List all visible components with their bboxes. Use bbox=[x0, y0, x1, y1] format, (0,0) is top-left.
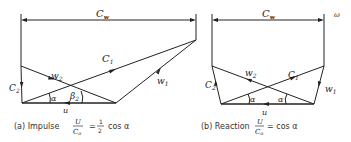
b-w2-label: w2 bbox=[245, 68, 257, 79]
diagram-b-labels: Cw C1 C2 w2 w1 u α α (b) Reaction U Co =… bbox=[201, 8, 337, 136]
b-caption-den: Co bbox=[255, 128, 263, 136]
a-caption-rest: cos α bbox=[108, 122, 129, 131]
a-w2-vector bbox=[21, 66, 116, 103]
a-caption-num: U bbox=[75, 118, 82, 126]
diagram-b-reaction bbox=[212, 14, 324, 106]
b-alpha-left-label: α bbox=[250, 95, 256, 104]
velocity-triangles-figure: Cw C1 C2 w2 w1 u α β2 (a) Impulse U Co =… bbox=[0, 0, 351, 142]
a-u-label: u bbox=[63, 106, 68, 115]
a-beta-label: β2 bbox=[69, 91, 79, 102]
a-beta-arc bbox=[81, 91, 83, 103]
a-cw-label: Cw bbox=[96, 8, 110, 20]
b-alpha-right-label: α bbox=[278, 95, 284, 104]
a-caption-frac-den: 2 bbox=[98, 127, 102, 134]
b-alpha-right-arc bbox=[285, 94, 287, 104]
a-caption-frac-num: 1 bbox=[99, 118, 103, 125]
b-w1-label: w1 bbox=[325, 84, 337, 95]
b-c2-label: C2 bbox=[205, 80, 216, 91]
diagram-a-labels: Cw C1 C2 w2 w1 u α β2 (a) Impulse U Co =… bbox=[9, 8, 169, 136]
b-caption-rest: = cos α bbox=[267, 122, 298, 131]
b-cw-label: Cw bbox=[262, 8, 276, 20]
a-caption-den: Co bbox=[73, 128, 81, 136]
a-alpha-label: α bbox=[51, 94, 57, 103]
b-w2-vector bbox=[212, 66, 314, 104]
a-caption-eq: = bbox=[89, 122, 96, 131]
a-w2-label: w2 bbox=[51, 71, 63, 82]
a-caption-prefix: (a) Impulse bbox=[14, 122, 59, 131]
b-c1-label: C1 bbox=[288, 70, 299, 81]
a-c1-vector bbox=[22, 40, 196, 103]
b-caption-num: U bbox=[257, 118, 264, 126]
a-c2-label: C2 bbox=[9, 83, 20, 94]
b-caption-prefix: (b) Reaction bbox=[201, 122, 250, 131]
corner-mark: ω bbox=[334, 11, 340, 19]
a-c1-label: C1 bbox=[102, 53, 113, 65]
a-w1-vector bbox=[116, 40, 196, 103]
b-u-label: u bbox=[262, 108, 267, 117]
a-w1-label: w1 bbox=[157, 76, 169, 87]
b-c1-vector bbox=[221, 66, 324, 104]
